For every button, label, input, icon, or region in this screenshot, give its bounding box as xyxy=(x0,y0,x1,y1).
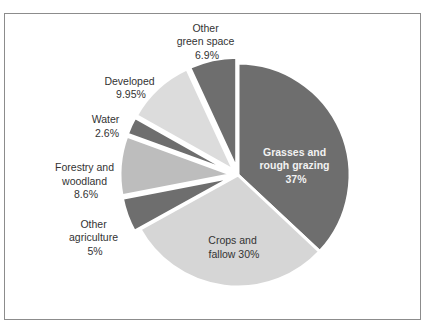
label-other-agriculture: Other agriculture 5% xyxy=(69,218,121,257)
label-other-green-space: Other green space 6.9% xyxy=(177,22,238,61)
label-forestry: Forestry and woodland 8.6% xyxy=(55,161,117,200)
label-water: Water 2.6% xyxy=(92,113,123,139)
pie-chart: Grasses and rough grazing 37% Crops and … xyxy=(0,0,427,324)
